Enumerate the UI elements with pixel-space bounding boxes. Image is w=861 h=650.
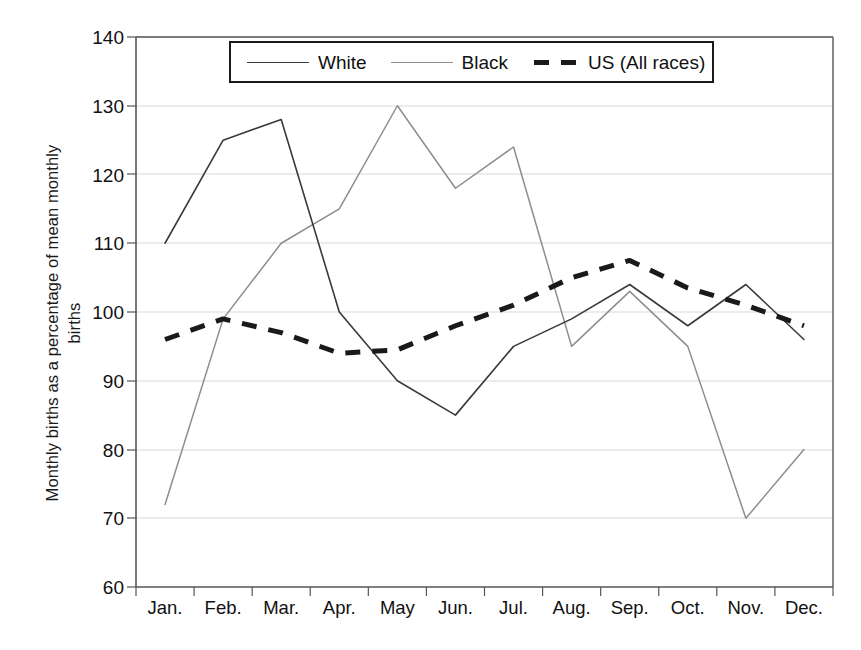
x-tick-mar: Mar.	[252, 596, 310, 626]
x-tick-jun: Jun.	[426, 596, 484, 626]
x-tick-sep: Sep.	[601, 596, 659, 626]
legend-entry-us-all-races: US (All races)	[532, 43, 705, 81]
x-tick-feb: Feb.	[194, 596, 252, 626]
plot-area	[0, 0, 861, 650]
x-tick-aug: Aug.	[543, 596, 601, 626]
legend-label-white: White	[318, 53, 367, 72]
x-tick-apr: Apr.	[310, 596, 368, 626]
legend-dashed-swatch-us-icon	[532, 55, 586, 69]
legend-label-black: Black	[462, 53, 508, 72]
x-tick-dec: Dec.	[775, 596, 833, 626]
legend-line-swatch-black-icon	[391, 55, 453, 69]
y-gridlines	[136, 37, 833, 518]
y-axis-ticks	[127, 37, 136, 587]
x-tick-oct: Oct.	[659, 596, 717, 626]
x-axis-tick-labels: Jan. Feb. Mar. Apr. May Jun. Jul. Aug. S…	[136, 596, 833, 626]
series-line-us-all-races	[165, 260, 804, 353]
legend-label-us-all-races: US (All races)	[588, 53, 705, 72]
series-line-white	[165, 120, 804, 416]
x-tick-jan: Jan.	[136, 596, 194, 626]
x-tick-jul: Jul.	[484, 596, 542, 626]
legend-entry-white: White	[247, 43, 367, 81]
chart-legend: White Black US (All races)	[229, 41, 714, 83]
x-tick-nov: Nov.	[717, 596, 775, 626]
legend-line-swatch-white-icon	[247, 55, 309, 69]
birth-seasonality-line-chart: Monthly births as a percentage of mean m…	[0, 0, 861, 650]
legend-entry-black: Black	[391, 43, 508, 81]
x-axis-ticks	[136, 587, 833, 596]
x-tick-may: May	[368, 596, 426, 626]
